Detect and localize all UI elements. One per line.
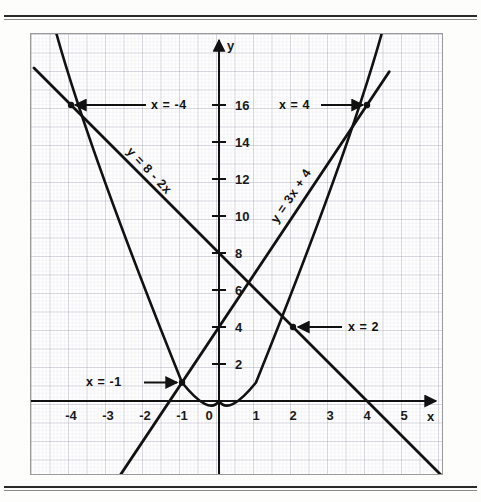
annotation-label: x = -1 (86, 375, 122, 389)
graph-paper: -4 -3 -2 -1 0 1 2 3 4 5 2 4 6 8 10 12 14… (30, 33, 443, 475)
page-rule-top (4, 15, 477, 17)
page-rule-top-thin (4, 19, 477, 20)
y-tick-label: 14 (235, 135, 250, 150)
page-rule-bottom-thin (4, 490, 477, 491)
x-tick-label: 0 (205, 408, 212, 423)
y-axis-label: y (227, 38, 235, 53)
y-tick-label: 2 (235, 357, 242, 372)
y-tick-label: 12 (235, 172, 249, 187)
y-tick-label: 4 (235, 320, 243, 335)
x-tick-label: -4 (65, 408, 77, 423)
x-tick-label: -3 (102, 408, 114, 423)
x-tick-label: 4 (363, 408, 371, 423)
y-tick-label: 8 (235, 246, 242, 261)
intersection-point (179, 379, 185, 385)
intersection-point (290, 324, 296, 330)
page-rule-bottom (4, 486, 477, 488)
annotation-label: x = 2 (348, 320, 379, 334)
x-tick-label: -2 (139, 408, 151, 423)
x-tick-label: 5 (400, 408, 407, 423)
x-axis-label: x (427, 409, 435, 424)
x-tick-label: 1 (252, 408, 259, 423)
intersection-point (364, 102, 370, 108)
graph-plot: -4 -3 -2 -1 0 1 2 3 4 5 2 4 6 8 10 12 14… (31, 34, 442, 474)
x-tick-label: -1 (176, 408, 188, 423)
y-tick-label: 10 (235, 209, 249, 224)
y-tick-label: 16 (235, 98, 249, 113)
x-tick-label: 2 (289, 408, 296, 423)
page-canvas: -4 -3 -2 -1 0 1 2 3 4 5 2 4 6 8 10 12 14… (0, 0, 481, 502)
x-tick-label: 3 (326, 408, 333, 423)
annotation-label: x = -4 (151, 98, 187, 112)
intersection-point (68, 102, 74, 108)
annotation-label: x = 4 (279, 98, 310, 112)
